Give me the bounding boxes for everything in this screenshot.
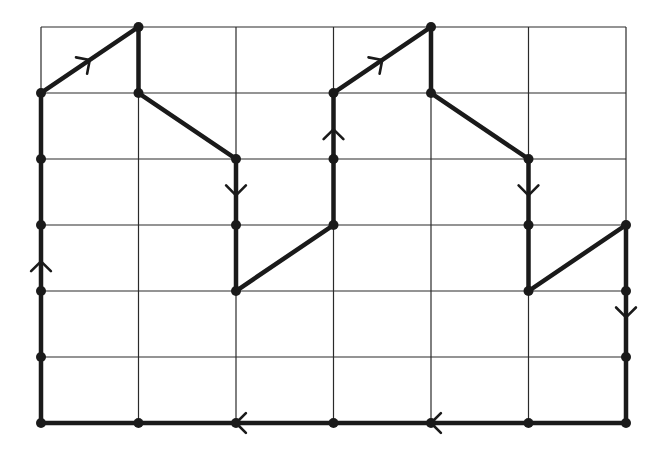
path-node (134, 88, 144, 98)
path-node (36, 352, 46, 362)
path-node (231, 220, 241, 230)
path-node (36, 418, 46, 428)
path-node (524, 154, 534, 164)
path-node (329, 88, 339, 98)
path-node (36, 154, 46, 164)
path-node (426, 88, 436, 98)
path-node (36, 220, 46, 230)
path-node (231, 286, 241, 296)
path-node (231, 154, 241, 164)
path-node (524, 286, 534, 296)
path-node (524, 220, 534, 230)
path-node (621, 220, 631, 230)
path-node (329, 154, 339, 164)
path-node (621, 352, 631, 362)
path-node (36, 286, 46, 296)
path-node (134, 22, 144, 32)
path-node (329, 220, 339, 230)
path-node (621, 286, 631, 296)
path-node (426, 22, 436, 32)
path-node (134, 418, 144, 428)
path-node (329, 418, 339, 428)
path-node (621, 418, 631, 428)
grid-path-diagram (0, 0, 668, 451)
path-node (524, 418, 534, 428)
path-node (36, 88, 46, 98)
